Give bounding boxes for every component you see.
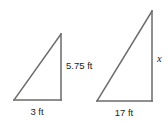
figure-canvas: 5.75 ft 3 ft x 17 ft <box>0 0 168 122</box>
geometry-figure: 5.75 ft 3 ft x 17 ft <box>0 0 168 122</box>
small-triangle-height-label: 5.75 ft <box>66 60 93 71</box>
small-triangle-base-label: 3 ft <box>30 106 44 117</box>
large-triangle-base-label: 17 ft <box>115 107 134 118</box>
large-triangle-height-label: x <box>156 53 162 64</box>
